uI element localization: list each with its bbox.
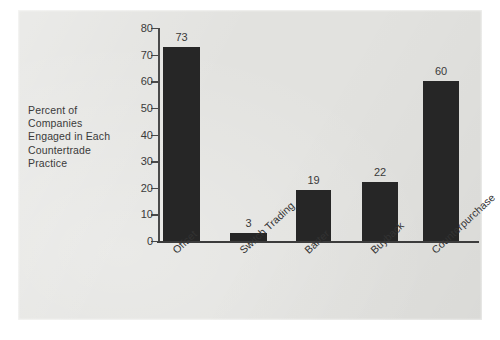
y-axis-title-line: Engaged in Each [28, 130, 140, 143]
figure: Percent of Companies Engaged in Each Cou… [0, 0, 500, 340]
y-axis-tick-label: 30 [141, 155, 153, 167]
y-axis-tick-label: 20 [141, 182, 153, 194]
y-axis-tick-label: 0 [147, 235, 153, 247]
bar [163, 47, 200, 241]
y-axis-line [158, 28, 160, 241]
y-axis-tick-label: 60 [141, 75, 153, 87]
y-axis-title-line: Companies [28, 117, 140, 130]
y-axis-title: Percent of Companies Engaged in Each Cou… [28, 104, 140, 170]
y-axis-title-line: Practice [28, 157, 140, 170]
bar-value-label: 19 [307, 174, 319, 186]
bar [423, 81, 459, 241]
y-axis-title-line: Countertrade [28, 144, 140, 157]
bar-value-label: 60 [435, 65, 447, 77]
bar-value-label: 22 [374, 166, 386, 178]
bar-value-label: 3 [245, 217, 251, 229]
bar-value-label: 73 [175, 31, 187, 43]
y-axis-tick-label: 80 [141, 22, 153, 34]
plot-area: 01020304050607080 733192260 OffsetSwitch… [158, 28, 474, 241]
y-axis-tick-label: 40 [141, 129, 153, 141]
y-axis-tick-label: 10 [141, 208, 153, 220]
y-axis-tick-label: 70 [141, 49, 153, 61]
y-axis-tick-label: 50 [141, 102, 153, 114]
y-axis-title-line: Percent of [28, 104, 140, 117]
